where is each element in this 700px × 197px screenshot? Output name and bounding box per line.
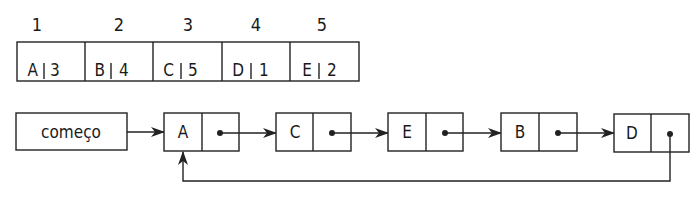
cell-next: 4 [119, 60, 129, 80]
cell-next: 3 [50, 60, 60, 80]
array: A 3 B 4 C 5 D 1 E 2 [17, 42, 359, 81]
list-node: C [276, 113, 351, 151]
list-node: E [388, 113, 463, 151]
cell-next: 2 [327, 60, 337, 80]
head-label: começo [41, 122, 101, 142]
list-node: A [164, 113, 239, 151]
cell-value: D [232, 60, 244, 80]
node-value: B [515, 122, 526, 142]
node-value: A [178, 122, 189, 142]
list-node: B [501, 113, 577, 151]
cell-value: A [28, 60, 39, 80]
cell-value: B [95, 60, 106, 80]
node-value: E [402, 122, 412, 142]
array-cell: D 1 [232, 60, 269, 80]
node-value: D [626, 123, 638, 143]
array-indices: 1 2 3 4 5 [32, 14, 327, 35]
array-index: 3 [183, 14, 193, 35]
cell-value: E [302, 60, 312, 80]
array-index: 5 [317, 14, 327, 35]
array-cell: C 5 [163, 60, 197, 80]
cell-next: 5 [188, 60, 198, 80]
linked-list-diagram: 1 2 3 4 5 A 3 B 4 C 5 D 1 [0, 0, 700, 197]
node-value: C [290, 122, 301, 142]
array-index: 2 [114, 14, 124, 35]
list-node: D [614, 114, 689, 152]
array-index: 4 [251, 14, 261, 35]
cell-value: C [163, 60, 174, 80]
array-cell: B 4 [95, 60, 129, 80]
array-cell: A 3 [28, 60, 60, 80]
cell-next: 1 [259, 60, 269, 80]
array-cell: E 2 [302, 60, 336, 80]
list-head: começo [16, 113, 127, 150]
array-index: 1 [32, 14, 42, 35]
